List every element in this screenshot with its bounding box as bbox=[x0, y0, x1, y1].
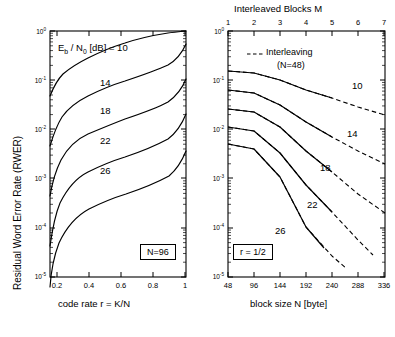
right-xtick-1: 96 bbox=[243, 281, 265, 290]
curve-18 bbox=[50, 79, 186, 196]
right-curve-label-14: 14 bbox=[347, 128, 358, 139]
left-x-axis-label: code rate r = K/N bbox=[58, 298, 130, 309]
left-box-note: N=96 bbox=[140, 244, 176, 260]
curve-18-solid bbox=[228, 109, 332, 172]
legend-label-line1: Interleaving bbox=[266, 47, 313, 57]
right-curve-label-10: 10 bbox=[352, 80, 363, 91]
left-curve-label-14: 14 bbox=[100, 77, 111, 88]
curve-14 bbox=[50, 44, 186, 146]
right-toptick-3: 4 bbox=[299, 18, 313, 27]
right-toptick-5: 6 bbox=[351, 18, 365, 27]
right-toptick-0: 1 bbox=[221, 18, 235, 27]
left-xtick-3: 0.8 bbox=[141, 281, 165, 290]
curve-26 bbox=[50, 151, 186, 287]
left-curve-label-26: 26 bbox=[100, 165, 111, 176]
right-chart-panel: Interleaved Blocks M 100 10-1 10-2 10-3 … bbox=[195, 0, 390, 337]
left-xtick-0: 0.2 bbox=[45, 281, 69, 290]
right-toptick-2: 3 bbox=[273, 18, 287, 27]
right-xtick-0: 48 bbox=[217, 281, 239, 290]
right-toptick-4: 5 bbox=[325, 18, 339, 27]
right-xtick-6: 336 bbox=[373, 281, 395, 290]
curve-14-dashed bbox=[228, 90, 385, 164]
left-xtick-1: 0.4 bbox=[77, 281, 101, 290]
right-toptick-6: 7 bbox=[377, 18, 391, 27]
right-xtick-3: 192 bbox=[295, 281, 317, 290]
right-curve-label-18: 18 bbox=[320, 162, 331, 173]
right-x-axis-label: block size N [byte] bbox=[250, 298, 327, 309]
right-xtick-5: 288 bbox=[347, 281, 369, 290]
right-toptick-1: 2 bbox=[247, 18, 261, 27]
curve-10-solid bbox=[228, 71, 332, 98]
left-curve-label-18: 18 bbox=[100, 105, 111, 116]
right-xtick-2: 144 bbox=[269, 281, 291, 290]
left-annotation-ebno: Eb / N0 [dB] = 10 bbox=[58, 42, 128, 55]
legend-label-line2: (N=48) bbox=[277, 60, 305, 70]
right-curve-label-26: 26 bbox=[275, 225, 286, 236]
left-chart-panel: Residual Word Error Rate (RWER) 100 10-1… bbox=[0, 0, 195, 337]
curve-22 bbox=[50, 114, 186, 246]
curve-18-dashed bbox=[228, 109, 385, 213]
left-curve-label-22: 22 bbox=[100, 135, 111, 146]
right-curve-label-22: 22 bbox=[307, 199, 318, 210]
left-xtick-2: 0.6 bbox=[109, 281, 133, 290]
curve-10 bbox=[50, 31, 186, 96]
right-box-note: r = 1/2 bbox=[233, 244, 273, 260]
right-xtick-4: 240 bbox=[321, 281, 343, 290]
left-xtick-4: 1 bbox=[173, 281, 197, 290]
